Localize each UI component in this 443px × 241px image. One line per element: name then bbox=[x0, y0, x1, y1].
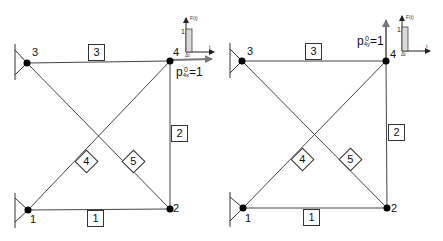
member-label-3: 3 bbox=[88, 44, 105, 61]
pulse-rect bbox=[402, 27, 408, 51]
member-2 bbox=[386, 61, 387, 208]
node-3 bbox=[24, 60, 31, 67]
right-truss bbox=[230, 16, 430, 227]
node-label-2: 2 bbox=[391, 203, 397, 214]
member-label-1: 1 bbox=[303, 209, 320, 226]
member-label-2: 2 bbox=[171, 125, 188, 142]
member-5 bbox=[242, 61, 387, 208]
member-label-2: 2 bbox=[388, 124, 405, 141]
load-arrow-x bbox=[172, 59, 212, 60]
node-label-1: 1 bbox=[30, 214, 36, 225]
member-label-4-text: 4 bbox=[83, 154, 89, 169]
load-label-right: p04y=1 bbox=[357, 35, 384, 48]
member-3 bbox=[27, 61, 170, 63]
member-label-4-text: 4 bbox=[299, 152, 305, 167]
member-label-5-text: 5 bbox=[130, 154, 136, 169]
pulse-rect bbox=[186, 29, 192, 52]
plot-xtick: Δt bbox=[401, 52, 406, 57]
plot-ytick: 1 bbox=[397, 26, 401, 33]
node-4 bbox=[167, 58, 174, 65]
node-label-1: 1 bbox=[245, 213, 251, 224]
node-label-4: 4 bbox=[390, 49, 396, 60]
node-1 bbox=[240, 205, 247, 212]
load-symbol: p bbox=[357, 34, 364, 48]
node-2 bbox=[384, 205, 391, 212]
plot-xlabel: t bbox=[426, 44, 427, 49]
member-5 bbox=[27, 63, 170, 209]
node-label-2: 2 bbox=[173, 203, 179, 214]
node-label-3: 3 bbox=[32, 47, 38, 58]
node-3 bbox=[239, 58, 246, 65]
load-value: =1 bbox=[370, 34, 384, 48]
load-symbol: p bbox=[176, 65, 183, 79]
left-truss bbox=[15, 18, 214, 228]
node-4 bbox=[383, 58, 390, 65]
member-label-5-text: 5 bbox=[347, 152, 353, 167]
node-label-3: 3 bbox=[247, 46, 253, 57]
plot-ylabel: F(t) bbox=[406, 15, 414, 20]
load-label-left: p04x=1 bbox=[176, 66, 203, 79]
plot-ylabel: F(t) bbox=[190, 16, 198, 21]
plot-ytick: 1 bbox=[181, 28, 185, 35]
member-label-3: 3 bbox=[305, 43, 322, 60]
load-value: =1 bbox=[189, 65, 203, 79]
plot-xlabel: t bbox=[209, 45, 210, 50]
plot-xtick: Δt bbox=[185, 53, 190, 58]
member-label-1: 1 bbox=[87, 210, 104, 227]
node-label-4: 4 bbox=[173, 47, 179, 58]
